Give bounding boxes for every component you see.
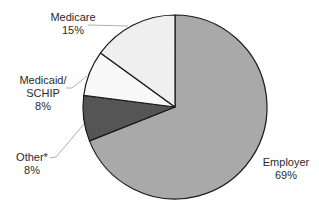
label-other: Other* 8% — [12, 151, 52, 177]
label-medicaid-pct: 8% — [14, 100, 72, 113]
label-medicaid-line1: Medicaid/ — [14, 74, 72, 87]
label-medicaid-line2: SCHIP — [14, 87, 72, 100]
label-medicare-name: Medicare — [45, 11, 101, 24]
label-medicare-pct: 15% — [45, 24, 101, 37]
label-other-name: Other* — [12, 151, 52, 164]
label-employer-name: Employer — [257, 156, 315, 169]
label-other-pct: 8% — [12, 164, 52, 177]
pie-slices — [83, 15, 267, 199]
label-medicare: Medicare 15% — [45, 11, 101, 37]
label-medicaid: Medicaid/ SCHIP 8% — [14, 74, 72, 113]
label-employer: Employer 69% — [257, 156, 315, 182]
label-employer-pct: 69% — [257, 169, 315, 182]
leader-line-other — [50, 124, 84, 158]
